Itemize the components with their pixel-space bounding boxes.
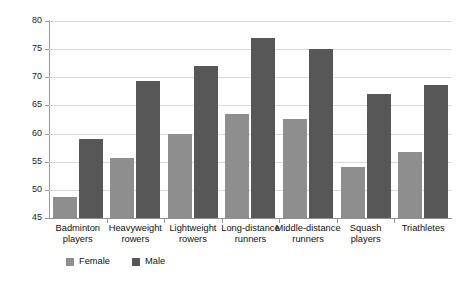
bar-group [49,21,107,218]
y-tick-label-80: 80 [18,16,42,25]
bar-male [424,85,448,218]
legend-swatch-female-icon [66,258,74,266]
y-tick-label-60: 60 [18,129,42,138]
bar-male [251,38,275,218]
bar-female [341,167,365,218]
bar-group [164,21,222,218]
x-axis-category-label: Triathletes [388,223,458,234]
legend-label-female: Female [79,257,110,266]
bar-group [279,21,337,218]
bar-female [225,114,249,218]
bar-male [367,94,391,218]
bar-female [398,152,422,218]
gridline-45 [49,218,452,219]
bar-male [136,81,160,218]
bar-group [222,21,280,218]
bar-group [394,21,452,218]
bar-group [107,21,165,218]
y-tick-label-45: 45 [18,213,42,222]
y-tick-label-75: 75 [18,44,42,53]
bar-male [79,139,103,218]
y-tick-label-50: 50 [18,185,42,194]
bar-female [53,197,77,218]
bar-male [309,49,333,218]
bar-female [283,119,307,218]
x-axis-label-line: Triathletes [388,223,458,234]
legend-item-female: Female [66,257,110,266]
bar-female [168,134,192,218]
legend-swatch-male-icon [132,258,140,266]
legend-label-male: Male [145,257,165,266]
x-axis-label-line: players [331,234,401,245]
legend-item-male: Male [132,257,165,266]
bar-group [337,21,395,218]
bar-male [194,66,218,218]
y-tick-label-55: 55 [18,157,42,166]
plot-area [49,21,452,218]
bar-female [110,158,134,218]
y-tick-label-70: 70 [18,72,42,81]
bar-chart: VO2max (ml/kg/min) 4550556065707580 Badm… [0,0,472,283]
legend: Female Male [66,257,165,266]
y-tick-label-65: 65 [18,100,42,109]
